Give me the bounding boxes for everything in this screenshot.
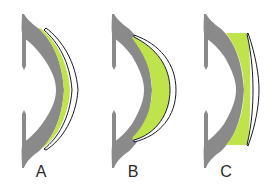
- panel-a-cornea: [22, 14, 64, 168]
- panel-b-cornea-spur-top: [112, 34, 116, 70]
- panel-a-label: A: [31, 163, 51, 181]
- panel-c-label: C: [216, 163, 236, 181]
- panel-c-cornea-spur-bottom: [204, 110, 208, 146]
- panel-b-label: B: [123, 163, 143, 181]
- panel-a-cornea-spur-top: [22, 34, 26, 70]
- panel-a: [22, 14, 78, 168]
- panel-c-cornea-spur-top: [204, 34, 208, 70]
- panel-b-cornea: [112, 14, 152, 168]
- panel-b-cornea-spur-bottom: [112, 110, 116, 146]
- panel-a-cornea-spur-bottom: [22, 110, 26, 146]
- diagram-canvas: A B C: [0, 0, 274, 195]
- panel-b: [112, 14, 176, 168]
- panel-c: [204, 14, 259, 168]
